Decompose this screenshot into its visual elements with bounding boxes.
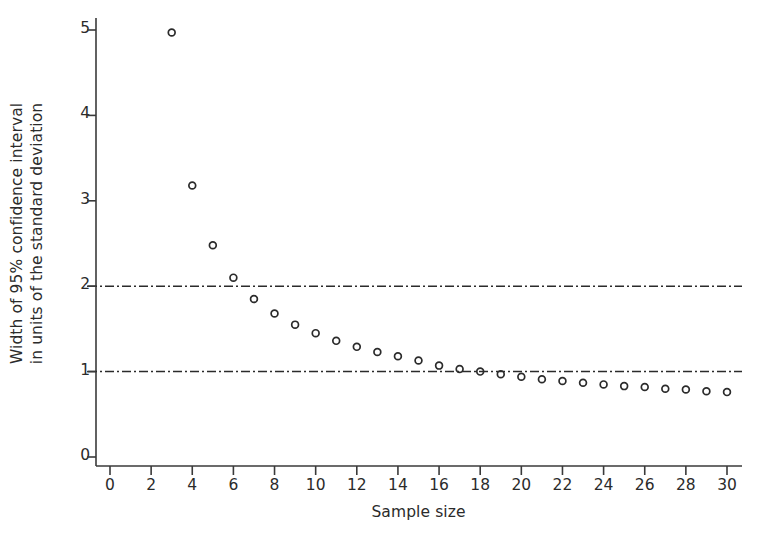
x-tick-label-0: 0 [90,478,130,494]
data-point [374,349,381,356]
x-tick-label-10: 10 [296,478,336,494]
data-point [456,366,463,373]
x-tick-label-8: 8 [255,478,295,494]
data-point [353,343,360,350]
x-tick-label-22: 22 [542,478,582,494]
x-axis-tick-labels: 024681012141618202224262830 [0,478,765,502]
data-point [641,384,648,391]
data-point [251,296,258,303]
data-point [559,378,566,385]
data-point [312,330,319,337]
x-tick-label-4: 4 [172,478,212,494]
x-tick-label-28: 28 [666,478,706,494]
data-point [230,274,237,281]
data-point [436,362,443,369]
chart-figure: Width of 95% confidence interval in unit… [0,0,765,549]
x-tick-label-30: 30 [707,478,747,494]
x-tick-label-18: 18 [460,478,500,494]
x-tick-label-16: 16 [419,478,459,494]
x-tick-label-14: 14 [378,478,418,494]
data-point [415,357,422,364]
data-point [271,310,278,317]
plot-area [0,0,765,549]
data-point [292,321,299,328]
x-tick-label-26: 26 [625,478,665,494]
data-point [189,182,196,189]
data-point [518,373,525,380]
data-point [703,388,710,395]
data-points [168,29,730,395]
axis-ticks [87,30,727,475]
x-axis-label: Sample size [110,503,727,521]
data-point [539,376,546,383]
data-point [333,337,340,344]
data-point [395,353,402,360]
x-tick-label-24: 24 [584,478,624,494]
x-tick-label-20: 20 [501,478,541,494]
data-point [600,381,607,388]
data-point [621,383,628,390]
axes [96,18,742,466]
x-tick-label-6: 6 [213,478,253,494]
data-point [580,379,587,386]
data-point [662,385,669,392]
data-point [209,242,216,249]
data-point [682,386,689,393]
data-point [168,29,175,36]
x-tick-label-12: 12 [337,478,377,494]
x-tick-label-2: 2 [131,478,171,494]
data-point [724,389,731,396]
